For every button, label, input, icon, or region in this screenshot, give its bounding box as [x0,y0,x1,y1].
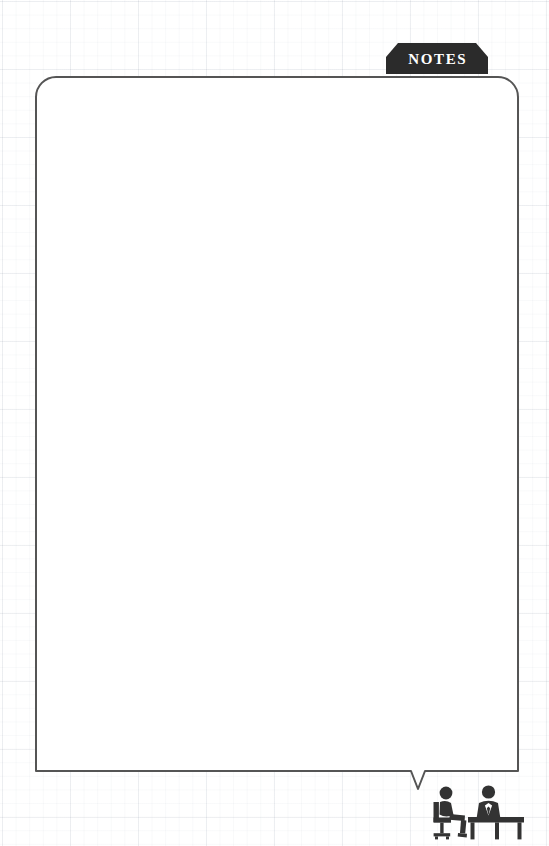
desk-top [468,817,524,822]
note-line [59,616,495,636]
note-line [59,696,495,716]
note-line [59,396,495,416]
seated-person-foot [458,833,467,837]
notes-text-area[interactable] [37,78,517,770]
chair-pedestal [440,823,443,834]
desk-leg-left [471,822,475,839]
note-line [59,236,495,256]
interview-meeting-glyph [428,784,532,844]
desk-leg-right [518,822,522,839]
note-line [59,296,495,316]
chair-base [434,833,451,836]
note-line [59,716,495,736]
notes-page: NOTES [0,0,549,846]
note-line [59,596,495,616]
note-line [59,636,495,656]
note-line [59,676,495,696]
seated-person-lower-leg [460,820,466,834]
note-line [59,516,495,536]
chair-seat [434,818,452,823]
note-line [59,216,495,236]
note-line [59,416,495,436]
note-line [59,476,495,496]
note-line [59,116,495,136]
note-line [59,356,495,376]
note-line [59,156,495,176]
note-line [59,536,495,556]
seated-person-thigh [449,814,465,821]
chair-caster-left [435,836,438,839]
note-line [59,576,495,596]
note-line [59,556,495,576]
desk-person-head [482,785,495,798]
notes-card [35,76,519,772]
interview-meeting-icon [428,784,532,844]
note-line [59,376,495,396]
desk-leg-middle [495,822,499,839]
note-line [59,436,495,456]
notes-tab[interactable]: NOTES [386,43,488,74]
chair-caster-right [446,836,449,839]
note-line [59,136,495,156]
note-line [59,496,495,516]
note-line [59,336,495,356]
note-line [59,176,495,196]
seated-person-torso [440,801,454,816]
note-line [59,196,495,216]
note-line [59,656,495,676]
notes-tab-label: NOTES [386,43,488,74]
note-line [59,256,495,276]
note-line [59,96,495,116]
note-line [59,456,495,476]
note-line [59,736,495,756]
seated-person-head [440,787,453,800]
note-line [59,276,495,296]
note-line [59,316,495,336]
